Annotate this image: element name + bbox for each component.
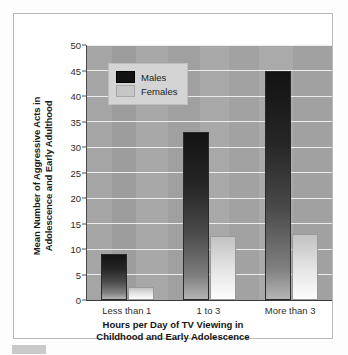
x-axis-tick-label: Less than 1 <box>102 305 151 316</box>
legend-swatch-females <box>116 85 135 97</box>
page-footer-tab <box>12 345 46 354</box>
y-axis-tick-mark <box>82 147 86 148</box>
chart-card: Mean Number of Aggressive Acts in Adoles… <box>13 13 333 339</box>
y-axis-tick-label: 0 <box>76 295 81 306</box>
y-axis-tick-label: 5 <box>76 269 81 280</box>
plot-area: MalesFemales <box>86 45 332 301</box>
y-axis-title: Mean Number of Aggressive Acts in Adoles… <box>31 51 55 301</box>
y-axis-tick-label: 20 <box>70 193 81 204</box>
gridline <box>87 147 332 148</box>
gridline <box>87 223 332 224</box>
chart-legend: MalesFemales <box>108 63 188 105</box>
x-axis-tick-label: 1 to 3 <box>197 305 221 316</box>
bar-females-0 <box>128 287 154 300</box>
gridline <box>87 198 332 199</box>
y-axis-tick-mark <box>82 172 86 173</box>
x-axis-title-line-1: Hours per Day of TV Viewing in <box>103 319 244 330</box>
y-axis-tick-label: 50 <box>70 40 81 51</box>
x-axis-tick-label: More than 3 <box>265 305 316 316</box>
y-axis-tick-mark <box>82 70 86 71</box>
y-axis-tick-mark <box>82 274 86 275</box>
page-background: Mean Number of Aggressive Acts in Adoles… <box>0 0 348 355</box>
legend-label-females: Females <box>141 86 177 97</box>
bar-males-0 <box>101 254 127 300</box>
y-axis-tick-label: 30 <box>70 142 81 153</box>
y-axis-tick-mark <box>82 96 86 97</box>
y-axis-title-line-2: Adolescence and Early Adulthood <box>43 101 54 252</box>
legend-item-males: Males <box>116 71 177 83</box>
legend-swatch-males <box>116 71 135 83</box>
y-axis-tick-label: 25 <box>70 167 81 178</box>
bar-females-1 <box>210 236 236 300</box>
y-axis-tick-label: 45 <box>70 65 81 76</box>
plot-area-wrapper: MalesFemales 05101520253035404550Less th… <box>86 45 332 301</box>
legend-label-males: Males <box>141 72 166 83</box>
x-axis-title: Hours per Day of TV Viewing in Childhood… <box>27 319 319 343</box>
y-axis-tick-mark <box>82 249 86 250</box>
y-axis-tick-mark <box>82 121 86 122</box>
y-axis-tick-mark <box>82 198 86 199</box>
y-axis-tick-mark <box>82 300 86 301</box>
gridline <box>87 121 332 122</box>
y-axis-tick-label: 40 <box>70 91 81 102</box>
y-axis-title-line-1: Mean Number of Aggressive Acts in <box>31 97 42 256</box>
legend-item-females: Females <box>116 85 177 97</box>
x-axis-title-line-2: Childhood and Early Adolescence <box>96 331 249 342</box>
gridline <box>87 45 332 46</box>
y-axis-tick-label: 15 <box>70 218 81 229</box>
y-axis-tick-mark <box>82 45 86 46</box>
y-axis-tick-label: 10 <box>70 244 81 255</box>
bar-males-2 <box>265 71 291 301</box>
bar-males-1 <box>183 132 209 300</box>
y-axis-tick-mark <box>82 223 86 224</box>
gridline <box>87 172 332 173</box>
y-axis-tick-label: 35 <box>70 116 81 127</box>
bar-females-2 <box>292 234 318 300</box>
